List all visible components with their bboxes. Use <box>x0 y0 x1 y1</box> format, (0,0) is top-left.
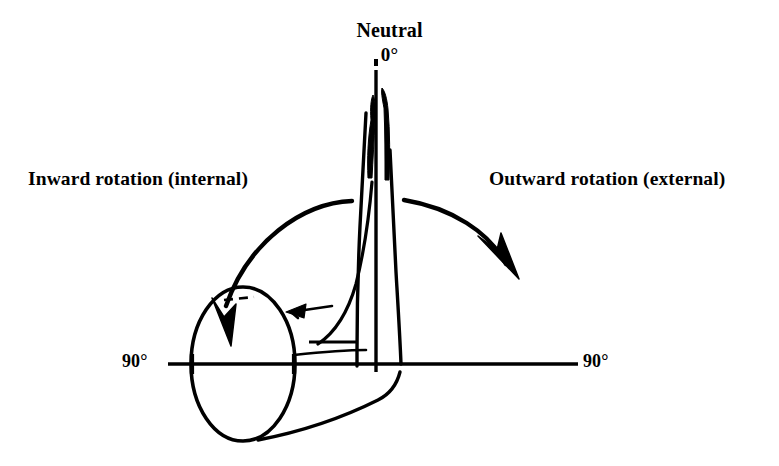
thigh-superior-contour <box>294 350 366 355</box>
outward-rotation-label: Outward rotation (external) <box>489 168 725 189</box>
great-toe-outline <box>382 88 390 180</box>
anatomy-line-art <box>0 0 779 466</box>
femur-rotation-arrowhead <box>286 304 306 318</box>
outward-rotation-arrowhead <box>478 233 519 279</box>
inward-rotation-label: Inward rotation (internal) <box>28 168 248 189</box>
inward-rotation-arc <box>226 201 352 306</box>
thigh-inferior-contour <box>258 372 400 440</box>
rotation-diagram: Neutral 0° Inward rotation (internal) Ou… <box>0 0 779 466</box>
left-angle-label: 90° <box>122 352 148 371</box>
lower-leg-medial-border <box>390 150 401 364</box>
neutral-angle-label: 0° <box>0 45 779 66</box>
foot-outline <box>368 95 376 178</box>
right-angle-label: 90° <box>583 352 609 371</box>
neutral-title-label: Neutral <box>0 20 779 42</box>
outward-rotation-arc <box>404 200 506 264</box>
